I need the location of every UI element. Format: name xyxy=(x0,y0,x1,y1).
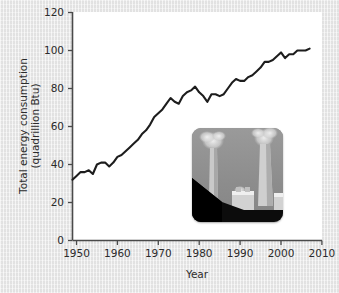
x-tick-label-1970: 1970 xyxy=(145,247,172,259)
y-tick-label-60: 60 xyxy=(51,120,64,132)
line-chart: 0 20 40 60 80 100 120 1950 1960 1970 198… xyxy=(0,0,339,293)
y-tick-label-20: 20 xyxy=(51,196,64,208)
y-tick-label-0: 0 xyxy=(57,234,64,246)
x-tick-label-1950: 1950 xyxy=(63,247,90,259)
x-tick-label-1960: 1960 xyxy=(104,247,131,259)
y-tick-label-120: 120 xyxy=(44,6,64,18)
x-tick-label-1990: 1990 xyxy=(227,247,254,259)
x-axis-title: Year xyxy=(185,268,209,280)
y-tick-label-100: 100 xyxy=(44,44,64,56)
y-axis-title-line1: Total energy consumption xyxy=(17,58,29,195)
y-tick-labels: 0 20 40 60 80 100 120 xyxy=(44,6,64,246)
x-tick-label-2010: 2010 xyxy=(309,247,336,259)
power-plant-illustration xyxy=(192,128,283,222)
chart-figure: 0 20 40 60 80 100 120 1950 1960 1970 198… xyxy=(0,0,339,293)
y-tick-label-40: 40 xyxy=(51,158,64,170)
power-plant-photo-inset xyxy=(192,128,283,222)
x-tick-label-1980: 1980 xyxy=(186,247,213,259)
y-axis-title-line2: (quadrillion Btu) xyxy=(29,84,41,169)
y-tick-label-80: 80 xyxy=(51,82,64,94)
x-tick-label-2000: 2000 xyxy=(268,247,295,259)
x-tick-labels: 1950 1960 1970 1980 1990 2000 2010 xyxy=(63,247,335,259)
